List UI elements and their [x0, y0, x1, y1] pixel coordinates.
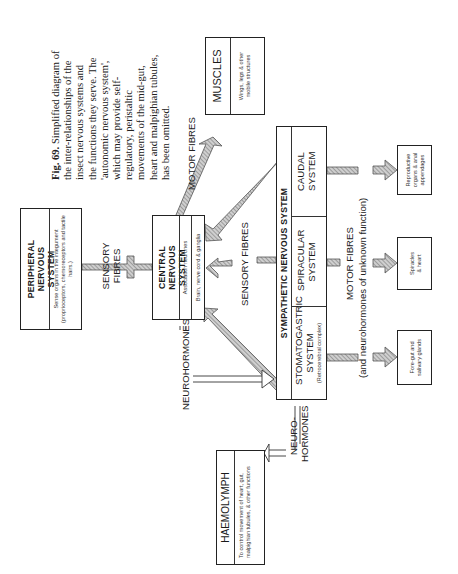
peripheral-title: PERIPHERAL NERVOUS SYSTEM: [26, 229, 56, 309]
peripheral-desc: Sense organs in the integument (proprioc…: [53, 213, 74, 325]
haemolymph-title: HAEMOLYMPH: [220, 451, 231, 564]
stomatogastric-title: STOMATOGASTRIC SYSTEM: [291, 307, 315, 399]
muscles-box: MUSCLES Wings, legs & other mobile struc…: [205, 37, 265, 115]
motor-arrow-caudal-reproductive: [327, 160, 397, 180]
haemolymph-box: HAEMOLYMPH To control movement of heart,…: [216, 450, 265, 565]
divider: [191, 216, 192, 319]
spiracular-title: SPIRACULAR SYSTEM: [291, 217, 317, 307]
figure-caption: Fig. 69. Simplified diagram of the inter…: [50, 50, 172, 180]
foregut-box: Fore-gut and salivary glands: [397, 330, 432, 385]
divider: [49, 209, 50, 329]
stomatogastric-desc: (Retrocerebral complex): [316, 307, 323, 399]
unknown-function-label: (and neurohormones of unknown function): [357, 198, 368, 378]
peripheral-nervous-system-box: PERIPHERAL NERVOUS SYSTEM Sense organs i…: [20, 208, 82, 330]
neurohormones-label-haemolymph: NEURO-HORMONES: [288, 410, 310, 462]
sympathetic-nervous-system-box: SYMPATHETIC NERVOUS SYSTEM STOMATOGASTRI…: [276, 126, 327, 400]
caudal-title: CAUDAL SYSTEM: [291, 127, 317, 217]
foregut-desc: Fore-gut and salivary glands: [409, 337, 423, 378]
divider: [230, 38, 231, 114]
central-brain: Brain, nerve cord & ganglia: [195, 220, 202, 315]
diagram-canvas: Fig. 69. Simplified diagram of the inter…: [0, 0, 458, 574]
divider: [234, 451, 235, 564]
motor-fibres-label-targets: MOTOR FIBRES: [344, 227, 355, 300]
central-association: Association neurones: [182, 220, 189, 315]
sensory-fibres-label-sympathetic: SENSORY FIBRES: [239, 222, 250, 306]
caudal-cell: CAUDAL SYSTEM: [291, 127, 326, 217]
spiracles-heart-box: Spiracles & heart: [397, 237, 432, 290]
motor-fibres-label-muscles: MOTOR FIBRES: [186, 117, 197, 190]
caption-text: Simplified diagram of the inter-relation…: [50, 51, 171, 180]
muscles-title: MUSCLES: [212, 38, 223, 114]
muscles-desc: Wings, legs & other mobile structures: [238, 44, 252, 108]
spiracles-desc: Spiracles & heart: [409, 250, 423, 277]
divider: [179, 216, 180, 319]
stomatogastric-cell: STOMATOGASTRIC SYSTEM (Retrocerebral com…: [291, 306, 326, 399]
sensory-fibres-label-peripheral: SENSORY FIBRES: [100, 238, 122, 294]
central-nervous-system-box: CENTRAL NERVOUS SYSTEM Association neuro…: [152, 215, 205, 320]
reproductive-box: Reproductive organs & anal appendages: [397, 145, 432, 195]
figure-label: Fig. 69.: [50, 147, 61, 180]
sympathetic-title: SYMPATHETIC NERVOUS SYSTEM: [279, 127, 289, 399]
spiracular-cell: SPIRACULAR SYSTEM: [291, 216, 326, 307]
reproductive-desc: Reproductive organs & anal appendages: [405, 149, 426, 191]
haemolymph-desc: To control movement of heart, gut, malpi…: [238, 457, 252, 558]
neurohormones-label-cns: NEUROHORMONES: [180, 319, 191, 410]
